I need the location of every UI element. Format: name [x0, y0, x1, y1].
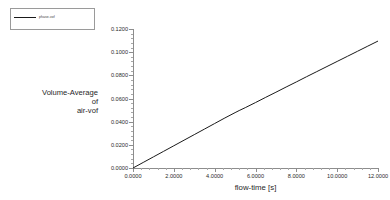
legend-box: phase-vof — [10, 8, 95, 30]
y-tick-label: 0.1200 — [111, 26, 128, 32]
x-tick-major — [378, 168, 379, 172]
x-tick-major — [215, 168, 216, 172]
y-axis-title: Volume-Average of air-vof — [8, 88, 98, 116]
y-axis-title-line-2: of — [8, 97, 98, 106]
y-tick-label: 0.0400 — [111, 119, 128, 125]
x-tick-minor — [223, 168, 224, 170]
x-tick-major — [174, 168, 175, 172]
x-tick-label: 2.0000 — [165, 173, 182, 179]
y-axis-title-line-1: Volume-Average — [8, 88, 98, 97]
x-tick-minor — [329, 168, 330, 170]
x-axis-title: flow-time [s] — [133, 183, 378, 192]
x-tick-minor — [182, 168, 183, 170]
y-tick-label: 0.1000 — [111, 49, 128, 55]
x-tick-minor — [207, 168, 208, 170]
x-tick-minor — [305, 168, 306, 170]
x-tick-label: 4.0000 — [206, 173, 223, 179]
x-tick-major — [296, 168, 297, 172]
x-tick-minor — [141, 168, 142, 170]
x-tick-label: 8.0000 — [288, 173, 305, 179]
x-tick-minor — [239, 168, 240, 170]
x-tick-major — [133, 168, 134, 172]
x-tick-minor — [370, 168, 371, 170]
series-line — [133, 41, 378, 168]
y-tick-label: 0.0200 — [111, 142, 128, 148]
x-tick-minor — [158, 168, 159, 170]
x-tick-minor — [280, 168, 281, 170]
x-tick-minor — [313, 168, 314, 170]
x-tick-minor — [264, 168, 265, 170]
x-tick-major — [337, 168, 338, 172]
x-tick-minor — [354, 168, 355, 170]
x-tick-minor — [231, 168, 232, 170]
series-plot — [133, 29, 378, 168]
x-tick-minor — [321, 168, 322, 170]
x-tick-label: 0.0000 — [124, 173, 141, 179]
x-tick-label: 12.0000 — [368, 173, 388, 179]
y-tick-label: 0.0600 — [111, 96, 128, 102]
y-tick-label: 0.0000 — [111, 165, 128, 171]
legend-line-swatch — [14, 17, 36, 18]
x-tick-minor — [149, 168, 150, 170]
plot-area: 0.00000.02000.04000.06000.08000.10000.12… — [133, 29, 378, 168]
x-tick-minor — [190, 168, 191, 170]
x-tick-minor — [247, 168, 248, 170]
x-tick-minor — [362, 168, 363, 170]
legend-entry: phase-vof — [14, 15, 55, 19]
x-tick-minor — [272, 168, 273, 170]
x-tick-minor — [198, 168, 199, 170]
y-tick-label: 0.0800 — [111, 72, 128, 78]
x-tick-minor — [166, 168, 167, 170]
legend-label: phase-vof — [39, 15, 55, 19]
x-tick-minor — [345, 168, 346, 170]
x-tick-label: 6.0000 — [247, 173, 264, 179]
x-tick-major — [256, 168, 257, 172]
x-tick-label: 10.0000 — [327, 173, 347, 179]
x-tick-minor — [288, 168, 289, 170]
y-axis-title-line-3: air-vof — [8, 106, 98, 115]
